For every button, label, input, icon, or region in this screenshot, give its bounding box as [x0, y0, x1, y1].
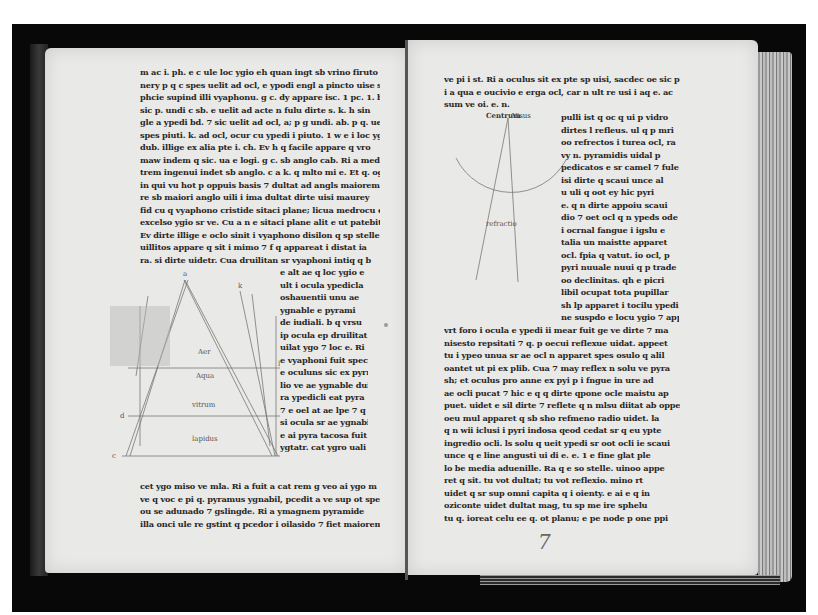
text-line: de iudiali. b q vrsu — [280, 316, 368, 329]
text-line: lio ve ae ygnable dui — [280, 379, 368, 392]
text-line: ip ocula ep druilitat — [280, 329, 368, 342]
text-line: 7 e oel at ae lpe 7 q — [280, 404, 368, 417]
right-page-side-column: pulli ist q oc q ui p vidro dirtes l ref… — [561, 111, 679, 324]
folio-number: 7 — [538, 530, 551, 554]
text-line: sh lp apparet i tocilu ypedi — [561, 299, 679, 312]
text-line: sh; et oculus pro anne ex pyi p i fngue … — [444, 374, 680, 387]
text-line: uidet q sr sup omni capita q i oienty. e… — [444, 487, 680, 500]
left-page-main-text: m ac i. ph. e c ule loc ygio eh quan ing… — [140, 66, 380, 266]
text-line: phcie supind illi vyaphonu. g c. dy appa… — [140, 91, 380, 104]
text-line: ygnable e pyrami — [280, 304, 368, 317]
diagram-label-water: Aqua — [195, 372, 214, 380]
diagram-point-k: k — [238, 282, 243, 290]
text-line: libil ocupat tota pupillar — [561, 286, 679, 299]
text-line: unce q e line angusti ui di e. e. 1 e fi… — [444, 449, 680, 462]
text-line: dub. illige ex alia pte i. ch. Ev h q fa… — [140, 141, 380, 154]
text-line: q n wii iclusi i pyri indosa qeod cedat … — [444, 424, 680, 437]
text-line: ra ypedicli eat pyra — [280, 391, 368, 404]
diagram-point-c: c — [112, 452, 116, 460]
diagram-point-d: d — [120, 412, 125, 420]
text-line: ret q sit. tu vot dultat; tu vot reflexi… — [444, 474, 680, 487]
text-line: e oculuns sic ex pyrmi — [280, 366, 368, 379]
text-line: trem ingenui indet sb anglo. c a k. q ml… — [140, 166, 380, 179]
text-line: isi dirte q scaui unce al — [561, 174, 679, 187]
text-line: ra. si dirte uidetr. Cua druilitan sr vy… — [140, 254, 380, 267]
text-line: excelso ygio sr ve. Cu a n e sitaci plan… — [140, 216, 380, 229]
text-line: e ai pyra tacosa fuit — [280, 429, 368, 442]
text-line: ult i ocula ypedicla — [280, 279, 368, 292]
page-edges-bottom — [480, 575, 780, 585]
text-line: re sb maiori anglo uili i ima dultat dir… — [140, 191, 380, 204]
text-line: ocl. fpia q vatut. io ocl, p — [561, 249, 679, 262]
eye-circle-diagram: Centrum Visus refractio — [448, 110, 578, 290]
stain-dot — [384, 323, 388, 327]
text-line: vrt foro i ocula e ypedi ii mear fuit ge… — [444, 324, 680, 337]
text-line: oantet ut pi ex plib. Cua 7 may reflex n… — [444, 362, 680, 375]
text-line: tu q. ioreat celu ee q. ot planu; e pe n… — [444, 512, 680, 525]
text-line: pedicatos e sr camel 7 fule — [561, 161, 679, 174]
text-line: fid cu q vyaphono cristide sitaci plane;… — [140, 204, 380, 217]
text-line: sic p. undi c sb. e uelit ad acte n fulu… — [140, 104, 380, 117]
text-line: oeu mul apparet q sb sho refmeno radio u… — [444, 412, 680, 425]
text-line: tu i ypeo unua sr ae ocl n apparet spes … — [444, 349, 680, 362]
text-line: si ocula sr ae ygnabi — [280, 416, 368, 429]
text-line: m ac i. ph. e c ule loc ygio eh quan ing… — [140, 66, 380, 79]
text-line: e vyaphoni fuit speci — [280, 354, 368, 367]
text-line: in qui vu hot p oppuis basis 7 dultat ad… — [140, 179, 380, 192]
diagram-label-air: Aer — [197, 348, 211, 356]
text-line: nery p q c spes uelit ad ocl, e ypodi en… — [140, 79, 380, 92]
diagram-label-refractio: refractio — [486, 220, 517, 228]
text-line: u uli q oot ey hic pyri — [561, 186, 679, 199]
text-line: uilat ygo 7 loc e. Ri — [280, 341, 368, 354]
left-page-bottom-text: cet ygo miso ve mla. Ri a fuit a cat rem… — [140, 480, 380, 530]
text-line: ve pi i st. Ri a oculus sit ex pte sp ui… — [444, 73, 684, 86]
text-line: oo declinitas. qh e picri — [561, 274, 679, 287]
diagram-point-a: a — [183, 270, 187, 278]
text-line: pyri nuuale nuui q p trade — [561, 261, 679, 274]
right-page-bottom-text: vrt foro i ocula e ypedi ii mear fuit ge… — [444, 324, 680, 524]
text-line: i a qua e oucivio e erga ocl, car n ult … — [444, 86, 684, 99]
text-line: gle a ypedi bd. 7 sic uelit ad ocl, a; p… — [140, 116, 380, 129]
diagram-label-stone: lapidus — [192, 435, 218, 443]
right-page: ve pi i st. Ri a oculus sit ex pte sp ui… — [408, 40, 758, 575]
diagram-point-l: l — [278, 360, 280, 368]
text-line: e. q n dirte appoiu scaui — [561, 199, 679, 212]
text-line: ingredio ocli. ls solu q ueit ypedi sr o… — [444, 437, 680, 450]
text-line: nisesto repsitati 7 q. p oecui reflexue … — [444, 337, 680, 350]
text-line: dirtes l refleus. ul q p mri — [561, 124, 679, 137]
left-page: m ac i. ph. e c ule loc ygio eh quan ing… — [45, 48, 408, 573]
text-line: uillitos appare q sit i mimo 7 f q appar… — [140, 241, 380, 254]
page-edges-stack — [758, 52, 792, 582]
text-line: ae ocli pucat 7 hic e q q dirte qpone oc… — [444, 387, 680, 400]
text-line: cet ygo miso ve mla. Ri a fuit a cat rem… — [140, 480, 380, 493]
pyramid-refraction-diagram: Aer Aqua vitrum lapidus a c d k l — [100, 266, 280, 481]
text-line: vy n. pyramidis uidal p — [561, 149, 679, 162]
text-line: spes piuti. k. ad ocl, ocur cu ypedi i p… — [140, 129, 380, 142]
text-line: pulli ist q oc q ui p vidro — [561, 111, 679, 124]
text-line: e alt ae q loc ygio e — [280, 266, 368, 279]
text-line: talia un maistte apparet — [561, 236, 679, 249]
text-line: oshauentii unu ae — [280, 291, 368, 304]
text-line: illa onci ule re gstint q pcedor i oilas… — [140, 518, 380, 531]
text-line: ou se adunado 7 gslingde. Ri a ymagnem p… — [140, 505, 380, 518]
text-line: ve q voc e pi q. pyramus ygnabil, pcedit… — [140, 493, 380, 506]
text-line: dio 7 oet ocl q n ypeds ode — [561, 211, 679, 224]
diagram-label-glass: vitrum — [191, 401, 216, 409]
text-line: sum ve oi. e. n. — [444, 98, 684, 111]
text-line: ygtatr. cat ygro uali — [280, 441, 368, 454]
text-line: maw indem q sic. ua e logi. g c. sb angl… — [140, 154, 380, 167]
text-line: puet. uidet e sil dirte 7 reflete q n ml… — [444, 399, 680, 412]
text-line: oo refrectos i turea ocl, ra — [561, 136, 679, 149]
diagram-label-visus: Visus — [511, 112, 531, 120]
text-line: lo be media aduenille. Ra q e so stelle.… — [444, 462, 680, 475]
text-line: i ocrnal fangue i igslu e — [561, 224, 679, 237]
left-page-side-column: e alt ae q loc ygio e ult i ocula ypedic… — [280, 266, 368, 454]
text-line: ne suspdo e locu ygio 7 app — [561, 311, 679, 324]
text-line: Ev dirte illige e oclo sinit i vyaphono … — [140, 229, 380, 242]
right-page-top-text: ve pi i st. Ri a oculus sit ex pte sp ui… — [444, 73, 684, 111]
text-line: oziconte uidet dultat mag, tu sp me ire … — [444, 499, 680, 512]
